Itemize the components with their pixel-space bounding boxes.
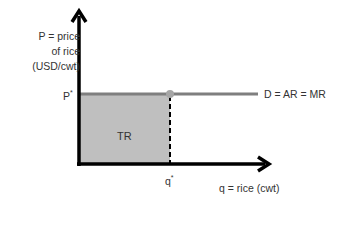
x-axis-label: q = rice (cwt) xyxy=(219,183,279,194)
q-star-label: q* xyxy=(165,174,174,186)
p-superscript: * xyxy=(70,89,73,96)
y-axis-label-line3: (USD/cwt) xyxy=(32,61,80,72)
demand-label: D = AR = MR xyxy=(264,89,326,100)
equilibrium-point xyxy=(166,90,174,98)
q-superscript: * xyxy=(171,174,174,181)
tr-area xyxy=(79,94,170,164)
tr-label: TR xyxy=(117,131,132,142)
p-star-label: P* xyxy=(63,89,73,101)
p-label: P xyxy=(63,90,70,102)
y-axis-label-line2: of rice xyxy=(51,46,80,57)
y-axis-label-line1: P = price xyxy=(38,31,80,42)
